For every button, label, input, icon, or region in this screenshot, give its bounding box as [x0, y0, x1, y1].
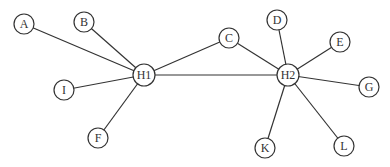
node-b: B [74, 12, 94, 32]
edge-i-h1 [64, 75, 144, 90]
node-label: A [20, 17, 29, 31]
node-l: L [334, 136, 354, 156]
node-a: A [14, 14, 34, 34]
node-h1: H1 [133, 64, 155, 86]
node-f: F [88, 128, 108, 148]
edge-l-h2 [288, 75, 344, 146]
network-diagram: ABIFH1CH2DEGKL [0, 0, 390, 167]
nodes-layer: ABIFH1CH2DEGKL [14, 10, 379, 158]
node-label: H1 [137, 68, 152, 82]
edge-f-h1 [98, 75, 144, 138]
edges-layer [24, 20, 369, 148]
node-label: C [225, 31, 233, 45]
node-label: K [261, 141, 270, 155]
node-label: D [273, 13, 282, 27]
node-label: G [365, 80, 374, 94]
node-label: L [340, 139, 347, 153]
node-label: I [62, 83, 66, 97]
node-c: C [219, 28, 239, 48]
node-label: B [80, 15, 88, 29]
diagram-canvas: ABIFH1CH2DEGKL [0, 0, 390, 167]
node-g: G [359, 77, 379, 97]
node-label: E [336, 35, 343, 49]
node-i: I [54, 80, 74, 100]
node-k: K [255, 138, 275, 158]
node-h2: H2 [277, 64, 299, 86]
edge-g-h2 [288, 75, 369, 87]
edge-h1-c [144, 38, 229, 75]
edge-b-h1 [84, 22, 144, 75]
node-d: D [267, 10, 287, 30]
node-e: E [330, 32, 350, 52]
node-label: H2 [281, 68, 296, 82]
node-label: F [95, 131, 102, 145]
